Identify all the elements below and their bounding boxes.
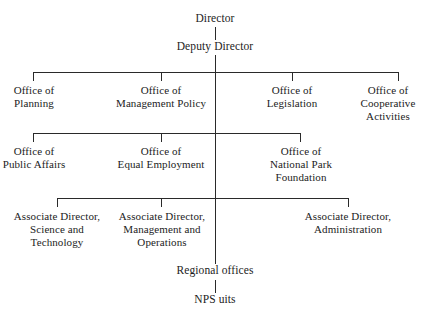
org-chart: Director Deputy Director Office of Plann… xyxy=(0,0,421,323)
connector-director-to-deputy xyxy=(215,27,216,40)
node-office-of-public-affairs: Office of Public Affairs xyxy=(0,145,75,171)
spine-bus2-to-bus3 xyxy=(215,133,216,199)
drop-bus3-management-and-operations xyxy=(161,198,162,207)
drop-bus3-science-and-technology xyxy=(57,198,58,207)
node-office-of-planning: Office of Planning xyxy=(0,84,70,110)
drop-bus2-equal-employment xyxy=(161,133,162,142)
node-associate-director-management-and-operations: Associate Director, Management and Opera… xyxy=(107,210,217,249)
drop-bus1-planning xyxy=(33,72,34,81)
drop-bus2-national-park-foundation xyxy=(300,133,301,142)
bus-row-3 xyxy=(57,198,349,199)
spine-bus3-to-regional-offices xyxy=(215,198,216,264)
node-office-of-management-policy: Office of Management Policy xyxy=(104,84,218,110)
bus-row-1 xyxy=(33,72,399,73)
bus-row-2 xyxy=(33,133,301,134)
node-office-of-legislation: Office of Legislation xyxy=(254,84,330,110)
drop-bus1-cooperative-activities xyxy=(398,72,399,81)
node-office-of-national-park-foundation: Office of National Park Foundation xyxy=(258,145,344,184)
node-associate-director-science-and-technology: Associate Director, Science and Technolo… xyxy=(3,210,111,249)
spine-bus1-to-bus2 xyxy=(215,72,216,134)
node-office-of-cooperative-activities: Office of Cooperative Activities xyxy=(355,84,421,123)
drop-bus3-administration xyxy=(348,198,349,207)
connector-regional-offices-to-nps-units xyxy=(215,280,216,293)
node-director: Director xyxy=(155,12,275,26)
node-regional-offices: Regional offices xyxy=(155,264,275,278)
connector-deputy-to-bus-1 xyxy=(215,55,216,73)
drop-bus1-management-policy xyxy=(161,72,162,81)
node-nps-units: NPS uits xyxy=(155,293,275,307)
drop-bus1-legislation xyxy=(292,72,293,81)
node-office-of-equal-employment: Office of Equal Employment xyxy=(100,145,222,171)
node-associate-director-administration: Associate Director, Administration xyxy=(294,210,402,236)
drop-bus2-public-affairs xyxy=(33,133,34,142)
node-deputy-director: Deputy Director xyxy=(155,40,275,54)
